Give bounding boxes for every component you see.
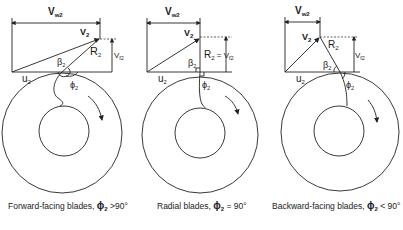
u2-label: u2: [158, 73, 168, 85]
phi2-label: ϕ2: [202, 80, 210, 91]
beta2-label: β2: [323, 60, 331, 71]
vw2-label: Vw2: [295, 5, 310, 17]
impeller-inner-circle: [314, 106, 364, 156]
caption-forward: Forward-facing blades, ϕ2 >90°: [8, 200, 128, 212]
panel-radial: Vw2 V2 R2 = Vf2 u2 β2 ϕ2 Radial blades, …: [142, 6, 258, 212]
right-angle-mark: [196, 68, 200, 72]
vw2-label: Vw2: [165, 6, 180, 18]
v2-vector: [12, 39, 99, 72]
impeller-outer-circle: [281, 73, 399, 191]
u2-label: u2: [296, 73, 306, 85]
r2-label: R2: [328, 39, 339, 51]
panel-forward: Vw2 V2 R2 Vf2 u2 β2 ϕ2 Forward-facing bl…: [2, 6, 128, 212]
r2-vf2-label: R2 = Vf2: [204, 49, 234, 61]
vf2-label: Vf2: [355, 51, 365, 61]
vf2-label: Vf2: [114, 51, 124, 61]
beta2-label: β2: [188, 58, 196, 69]
vw2-label: Vw2: [48, 6, 63, 18]
blade-velocity-diagram: Vw2 V2 R2 Vf2 u2 β2 ϕ2 Forward-facing bl…: [0, 0, 403, 230]
rotation-arrow-icon: [225, 96, 238, 114]
rotation-arrow-icon: [368, 100, 377, 122]
impeller-outer-circle: [2, 73, 122, 193]
panel-backward: Vw2 V2 R2 Vf2 u2 β2 ϕ2 Backward-facing b…: [272, 5, 400, 212]
right-angle-mark: [200, 72, 204, 76]
impeller-inner-circle: [175, 108, 225, 158]
v2-vector: [285, 38, 319, 72]
phi2-label: ϕ2: [346, 80, 354, 91]
u2-label: u2: [22, 73, 32, 85]
blade-curve: [54, 72, 63, 106]
impeller-inner-circle: [39, 106, 89, 156]
rotation-arrow-icon: [88, 96, 102, 120]
caption-backward: Backward-facing blades, ϕ2 < 90°: [272, 200, 400, 212]
v2-label: V2: [184, 28, 194, 39]
v2-label: V2: [80, 27, 90, 38]
caption-radial: Radial blades, ϕ2 = 90°: [157, 200, 247, 212]
r2-label: R2: [90, 45, 102, 58]
beta2-label: β2: [57, 57, 65, 68]
v2-label: V2: [302, 32, 312, 43]
phi2-label: ϕ2: [70, 80, 78, 91]
